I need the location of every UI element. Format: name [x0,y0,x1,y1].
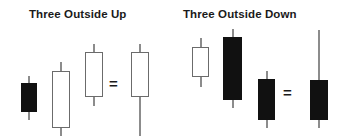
down-result-candle-body [310,80,328,120]
down-candle-2 [223,29,242,108]
pattern-title-three-outside-up: Three Outside Up [29,8,126,20]
down-candle-3-body [258,79,275,120]
up-candle-3-body [85,52,103,97]
equals-sign-up: = [109,76,118,91]
down-candle-1 [192,38,209,87]
up-candle-1-body [21,83,37,112]
up-candle-1 [21,76,37,120]
up-candle-2 [52,62,70,136]
candlestick-pattern-figure: Three Outside Up = Three Outside Down = [0,0,337,140]
up-result-candle-body [131,52,149,97]
down-candle-2-body [223,37,242,100]
down-candle-1-body [192,47,209,77]
down-result-candle [310,30,328,128]
up-candle-3 [85,44,103,106]
down-candle-3 [258,71,275,128]
pattern-title-three-outside-down: Three Outside Down [183,8,297,20]
up-result-candle [131,44,149,136]
equals-sign-down: = [283,85,292,100]
up-candle-2-body [52,71,70,128]
